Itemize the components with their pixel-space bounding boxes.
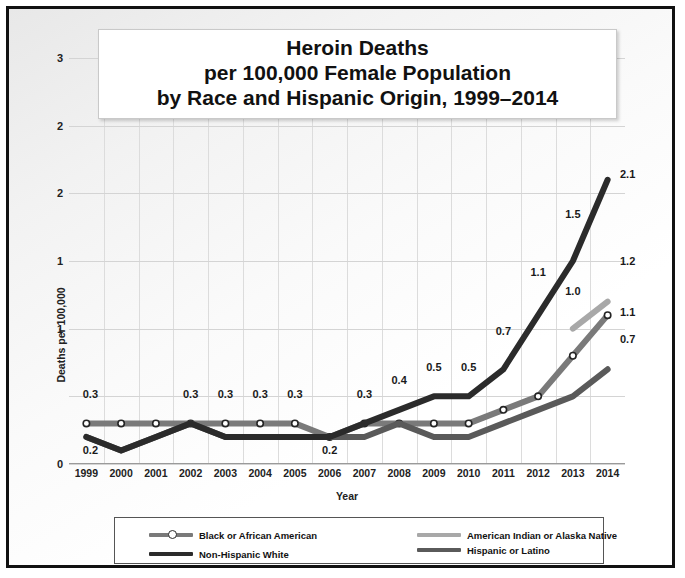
data-point-label: 0.3 [183,388,198,400]
y-axis-tick-label: 1 [37,323,63,335]
x-axis-tick-label: 2011 [492,467,515,479]
legend-swatch [417,543,461,557]
x-axis-title: Year [69,490,625,502]
legend-item[interactable]: Black or African American [149,528,317,542]
data-point-label: 0.2 [83,444,98,456]
series-marker [431,420,437,426]
series-marker [83,420,89,426]
y-axis-tick-label: 3 [37,52,63,64]
x-axis-tick-label: 2000 [109,467,132,479]
legend-swatch [417,528,461,542]
x-axis-tick-label: 2012 [526,467,549,479]
data-point-label: 0.4 [391,374,406,386]
x-axis-tick-label: 2005 [283,467,306,479]
series-marker [500,407,506,413]
legend-swatch [149,528,193,542]
x-axis-ticks: 1999200020012002200320042005200620072008… [69,467,625,485]
data-point-label: 2.1 [620,168,635,180]
x-axis-tick-label: 2013 [561,467,584,479]
x-axis-tick-label: 2003 [214,467,237,479]
chart-title: Heroin Deaths per 100,000 Female Populat… [98,29,617,119]
legend-item[interactable]: American Indian or Alaska Native [417,528,617,542]
legend-label: Non-Hispanic White [199,549,289,560]
data-point-label: 0.3 [357,388,372,400]
series-marker [292,420,298,426]
gridline-horizontal [69,464,625,465]
x-axis-tick-label: 2004 [248,467,271,479]
series-marker [153,420,159,426]
x-axis-tick-label: 2010 [457,467,480,479]
legend-label: Black or African American [199,530,317,541]
chart-title-line-1: Heroin Deaths [107,36,608,61]
series-marker [604,312,610,318]
series-line [86,369,607,450]
chart-title-line-2: per 100,000 Female Population [107,61,608,86]
legend-label: American Indian or Alaska Native [467,530,617,541]
data-point-label: 1.1 [530,266,545,278]
data-point-label: 0.7 [620,333,635,345]
x-axis-tick-label: 2006 [318,467,341,479]
data-point-label: 0.7 [496,325,511,337]
data-point-label: 0.3 [287,388,302,400]
y-axis-ticks: 322110 [35,58,63,464]
y-axis-tick-label: 1 [37,255,63,267]
chart-frame: Deaths per 100,000 322110 0.30.20.30.30.… [6,6,675,568]
data-point-label: 0.2 [322,444,337,456]
series-line [86,180,607,451]
series-marker [118,420,124,426]
data-point-label: 1.0 [565,285,580,297]
series-marker [257,420,263,426]
data-point-label: 1.1 [620,306,635,318]
data-point-label: 0.3 [218,388,233,400]
series-marker [465,420,471,426]
x-axis-tick-label: 1999 [75,467,98,479]
legend-swatch [149,547,193,561]
data-point-label: 1.5 [565,208,580,220]
legend-marker-icon [168,530,177,539]
data-point-label: 0.3 [252,388,267,400]
legend-label: Hispanic or Latino [467,545,550,556]
chart-title-line-3: by Race and Hispanic Origin, 1999–2014 [107,86,608,111]
x-axis-tick-label: 2009 [422,467,445,479]
legend-item[interactable]: Hispanic or Latino [417,543,550,557]
y-axis-tick-label: 2 [37,187,63,199]
series-marker [222,420,228,426]
data-point-label: 1.2 [620,255,635,267]
series-marker [570,353,576,359]
x-axis-tick-label: 2007 [353,467,376,479]
chart-plot-background: Deaths per 100,000 322110 0.30.20.30.30.… [9,9,672,565]
x-axis-tick-label: 2014 [596,467,619,479]
data-point-label: 0.3 [83,388,98,400]
x-axis-tick-label: 2001 [144,467,167,479]
legend-item[interactable]: Non-Hispanic White [149,547,289,561]
series-marker [535,393,541,399]
data-point-label: 0.5 [426,361,441,373]
data-point-label: 0.5 [461,361,476,373]
x-axis-tick-label: 2008 [387,467,410,479]
x-axis-tick-label: 2002 [179,467,202,479]
y-axis-tick-label: 0 [37,458,63,470]
y-axis-tick-label: 2 [37,120,63,132]
chart-legend: Black or African AmericanNon-Hispanic Wh… [114,517,604,564]
